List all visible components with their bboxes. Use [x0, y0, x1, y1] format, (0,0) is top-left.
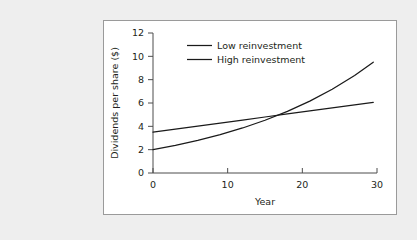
x-tick-label: 10	[222, 179, 234, 190]
x-axis-title: Year	[254, 196, 275, 207]
y-tick-label: 12	[132, 27, 144, 38]
x-tick-label: 0	[150, 179, 156, 190]
y-axis-ticks	[148, 33, 153, 173]
y-tick-label: 8	[138, 74, 144, 85]
x-tick-label: 20	[296, 179, 308, 190]
y-tick-label: 0	[138, 167, 144, 178]
x-tick-label: 30	[371, 179, 383, 190]
line-chart: 12 10 8 6 4 2 0 0 10 20 30 Year Dividend…	[104, 21, 398, 216]
legend-label-high-reinvestment: High reinvestment	[217, 54, 305, 65]
y-tick-label: 6	[138, 97, 144, 108]
y-tick-label: 4	[138, 121, 144, 132]
y-axis-tick-labels: 12 10 8 6 4 2 0	[132, 27, 144, 178]
legend: Low reinvestment High reinvestment	[187, 40, 305, 65]
y-tick-label: 2	[138, 144, 144, 155]
series-line-high-reinvestment	[153, 62, 373, 150]
x-axis-tick-labels: 0 10 20 30	[150, 179, 383, 190]
legend-label-low-reinvestment: Low reinvestment	[217, 40, 302, 51]
y-axis-title: Dividends per share ($)	[109, 47, 120, 159]
y-tick-label: 10	[132, 51, 144, 62]
series-line-low-reinvestment	[153, 102, 373, 132]
x-axis-ticks	[153, 168, 377, 173]
figure-panel: 12 10 8 6 4 2 0 0 10 20 30 Year Dividend…	[103, 20, 397, 215]
